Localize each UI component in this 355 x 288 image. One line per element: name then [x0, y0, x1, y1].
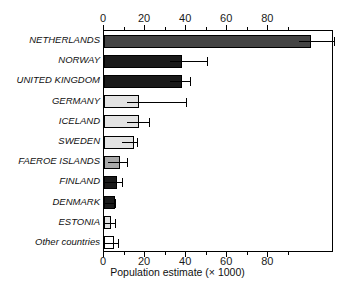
tickmark-50 [206, 27, 207, 30]
error-bar-cap-finland [122, 178, 123, 187]
tickmark-90 [288, 252, 289, 255]
tickmark-70 [247, 27, 248, 30]
category-label-estonia: ESTONIA [58, 217, 100, 227]
error-bar-cap-denmark [115, 199, 116, 208]
category-label-denmark: DENMARK [52, 197, 100, 207]
category-label-sweden: SWEDEN [58, 136, 100, 146]
tickmark-60 [226, 25, 227, 30]
tickmark-30 [165, 27, 166, 30]
top-tick-label-60: 60 [211, 12, 241, 24]
bar-netherlands [104, 35, 311, 48]
error-bar-sweden [122, 142, 137, 143]
top-tick-label-0: 0 [88, 12, 118, 24]
tickmark-90 [288, 27, 289, 30]
error-bar-cap-other-countries [118, 239, 119, 248]
x-axis-title: Population estimate (× 1000) [0, 266, 355, 278]
tickmark-20 [144, 25, 145, 30]
category-label-netherlands: NETHERLANDS [29, 35, 100, 45]
category-label-faeroe-islands: FAEROE ISLANDS [18, 156, 100, 166]
category-label-other-countries: Other countries [35, 237, 100, 247]
error-bar-germany [127, 102, 186, 103]
top-tick-label-20: 20 [129, 12, 159, 24]
error-bar-cap-norway [207, 57, 208, 66]
population-estimate-bar-chart: 020406080 NETHERLANDSNORWAYUNITED KINGDO… [0, 0, 355, 288]
error-bar-iceland [127, 122, 149, 123]
plot-area [103, 30, 333, 252]
category-label-finland: FINLAND [59, 176, 100, 186]
error-bar-norway [170, 61, 207, 62]
tickmark-40 [185, 25, 186, 30]
error-bar-cap-germany [186, 98, 187, 107]
tickmark-10 [124, 27, 125, 30]
tickmark-0 [103, 25, 104, 30]
error-bar-finland [105, 182, 122, 183]
tickmark-30 [165, 252, 166, 255]
top-tick-label-80: 80 [252, 12, 282, 24]
category-label-united-kingdom: UNITED KINGDOM [17, 75, 100, 85]
error-bar-denmark [104, 203, 115, 204]
error-bar-cap-estonia [115, 219, 116, 228]
error-bar-cap-iceland [149, 118, 150, 127]
error-bar-netherlands [299, 41, 334, 42]
tickmark-80 [267, 25, 268, 30]
error-bar-united-kingdom [170, 81, 190, 82]
error-bar-cap-faeroe-islands [127, 158, 128, 167]
error-bar-cap-sweden [137, 138, 138, 147]
category-label-norway: NORWAY [58, 55, 100, 65]
error-bar-estonia [104, 223, 115, 224]
tickmark-70 [247, 252, 248, 255]
error-bar-cap-united-kingdom [190, 77, 191, 86]
error-bar-cap-netherlands [334, 37, 335, 46]
top-tick-label-40: 40 [170, 12, 200, 24]
category-label-iceland: ICELAND [59, 116, 100, 126]
tickmark-10 [124, 252, 125, 255]
category-label-germany: GERMANY [52, 96, 100, 106]
tickmark-50 [206, 252, 207, 255]
error-bar-faeroe-islands [108, 162, 126, 163]
error-bar-other-countries [104, 243, 118, 244]
